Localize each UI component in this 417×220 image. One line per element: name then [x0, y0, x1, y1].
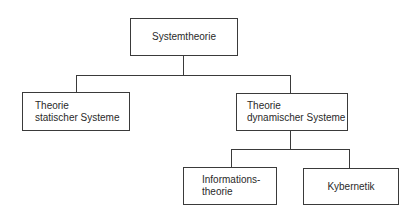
node-label-line2: dynamischer Systeme: [247, 112, 347, 124]
connector-to-static: [76, 75, 77, 92]
node-label-line1: Theorie: [247, 100, 347, 112]
node-label-line2: theorie: [202, 186, 276, 198]
node-theorie-dynamischer-systeme: Theorie dynamischer Systeme: [236, 93, 348, 131]
connector-level3-bar: [231, 149, 350, 150]
node-systemtheorie: Systemtheorie: [130, 18, 238, 56]
node-label-line1: Informations-: [202, 174, 276, 186]
node-label-line1: Theorie: [35, 100, 129, 112]
connector-dynamic-down: [290, 130, 291, 149]
node-label-line2: statischer Systeme: [35, 112, 129, 124]
connector-level2-bar: [76, 75, 291, 76]
node-kybernetik: Kybernetik: [303, 168, 399, 205]
connector-to-information: [231, 149, 232, 167]
connector-to-cybernetics: [349, 149, 350, 168]
connector-to-dynamic: [290, 75, 291, 93]
node-informationstheorie: Informations- theorie: [183, 167, 277, 205]
connector-root-down: [183, 55, 184, 75]
node-theorie-statischer-systeme: Theorie statischer Systeme: [22, 92, 130, 131]
node-label: Kybernetik: [327, 181, 374, 193]
node-label: Systemtheorie: [152, 31, 216, 43]
